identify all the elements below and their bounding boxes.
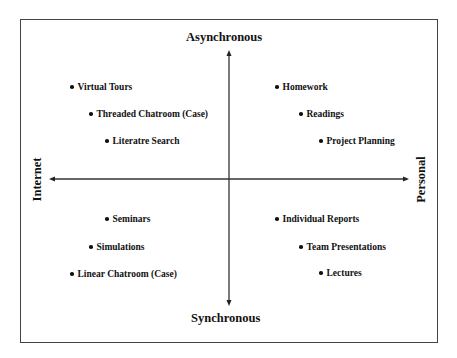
quadrant-item-bottom-right: Individual Reports bbox=[275, 214, 359, 224]
bullet-icon bbox=[319, 139, 323, 143]
quadrant-item-top-left: Threaded Chatroom (Case) bbox=[89, 109, 208, 119]
bullet-icon bbox=[275, 217, 279, 221]
item-label: Simulations bbox=[97, 242, 145, 252]
arrow-up-icon bbox=[227, 50, 232, 56]
item-label: Lectures bbox=[327, 268, 362, 278]
bullet-icon bbox=[275, 85, 279, 89]
vertical-axis bbox=[227, 50, 232, 306]
item-label: Project Planning bbox=[327, 136, 395, 146]
axis-label-personal: Personal bbox=[414, 150, 429, 210]
item-label: Individual Reports bbox=[283, 214, 360, 224]
bullet-icon bbox=[89, 112, 93, 116]
quadrant-item-bottom-left: Linear Chatroom (Case) bbox=[70, 269, 177, 279]
arrow-down-icon bbox=[227, 300, 232, 306]
item-label: Seminars bbox=[113, 214, 151, 224]
quadrant-item-top-right: Homework bbox=[275, 82, 328, 92]
bullet-icon bbox=[105, 139, 109, 143]
quadrant-item-bottom-left: Seminars bbox=[105, 214, 151, 224]
quadrant-item-top-right: Project Planning bbox=[319, 136, 395, 146]
quadrant-item-bottom-left: Simulations bbox=[89, 242, 145, 252]
item-label: Readings bbox=[307, 109, 344, 119]
axis-label-synchronous: Synchronous bbox=[191, 311, 260, 326]
bullet-icon bbox=[299, 245, 303, 249]
item-label: Virtual Tours bbox=[78, 82, 133, 92]
quadrant-item-bottom-right: Lectures bbox=[319, 268, 362, 278]
item-label: Linear Chatroom (Case) bbox=[78, 269, 177, 279]
quadrant-item-top-left: Literatre Search bbox=[105, 136, 179, 146]
quadrant-item-bottom-right: Team Presentations bbox=[299, 242, 386, 252]
bullet-icon bbox=[299, 112, 303, 116]
arrow-left-icon bbox=[49, 177, 55, 182]
quadrant-item-top-right: Readings bbox=[299, 109, 344, 119]
item-label: Threaded Chatroom (Case) bbox=[97, 109, 209, 119]
axis-label-internet: Internet bbox=[30, 155, 45, 205]
arrow-right-icon bbox=[403, 177, 409, 182]
bullet-icon bbox=[70, 85, 74, 89]
item-label: Homework bbox=[283, 82, 328, 92]
bullet-icon bbox=[70, 272, 74, 276]
axis-label-asynchronous: Asynchronous bbox=[186, 30, 262, 45]
quadrant-item-top-left: Virtual Tours bbox=[70, 82, 132, 92]
bullet-icon bbox=[319, 271, 323, 275]
quadrant-axes bbox=[0, 0, 457, 358]
bullet-icon bbox=[105, 217, 109, 221]
item-label: Team Presentations bbox=[307, 242, 386, 252]
item-label: Literatre Search bbox=[113, 136, 180, 146]
bullet-icon bbox=[89, 245, 93, 249]
